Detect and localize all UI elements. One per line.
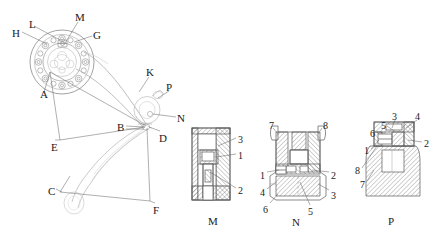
callout-label-C: C: [48, 186, 55, 197]
number-label-8: 8: [323, 121, 328, 131]
callout-label-K: K: [146, 67, 154, 78]
number-label-3: 3: [392, 112, 397, 122]
callout-label-L: L: [29, 19, 36, 30]
callout-label-G: G: [93, 30, 101, 41]
number-label-1: 1: [364, 146, 369, 156]
number-label-5: 5: [381, 121, 386, 131]
number-label-3: 3: [331, 191, 336, 201]
number-label-7: 7: [269, 121, 274, 131]
number-label-2: 2: [331, 171, 336, 181]
number-label-5: 5: [308, 207, 313, 217]
number-label-1: 1: [260, 171, 265, 181]
callout-leaders: [22, 22, 176, 203]
callout-label-E: E: [51, 142, 58, 153]
number-label-6: 6: [263, 205, 268, 215]
number-label-4: 4: [415, 112, 420, 122]
number-label-8: 8: [355, 166, 360, 176]
detail-m-geometry: [192, 128, 230, 200]
callout-label-F: F: [153, 205, 159, 216]
caption-detail-n: N: [292, 217, 300, 228]
number-label-2: 2: [424, 139, 429, 149]
callout-label-M: M: [75, 12, 85, 23]
caption-detail-m: M: [208, 216, 218, 227]
callout-label-B: B: [117, 122, 124, 133]
patent-figure-canvas: H L M G K P N A B D E C F 3 1 2 7 8 1 2 …: [0, 0, 441, 242]
detail-n-geometry: [270, 126, 326, 200]
callout-label-A: A: [40, 89, 48, 100]
number-label-2: 2: [238, 186, 243, 196]
callout-label-P: P: [166, 82, 172, 93]
figure-drawing: [0, 0, 441, 242]
number-label-4: 4: [260, 188, 265, 198]
callout-label-D: D: [159, 133, 167, 144]
callout-label-N: N: [177, 113, 185, 124]
number-label-6: 6: [370, 129, 375, 139]
callout-label-H: H: [12, 28, 20, 39]
number-label-7: 7: [360, 180, 365, 190]
caption-detail-p: P: [388, 216, 394, 227]
number-label-3: 3: [238, 135, 243, 145]
number-label-1: 1: [238, 151, 243, 161]
